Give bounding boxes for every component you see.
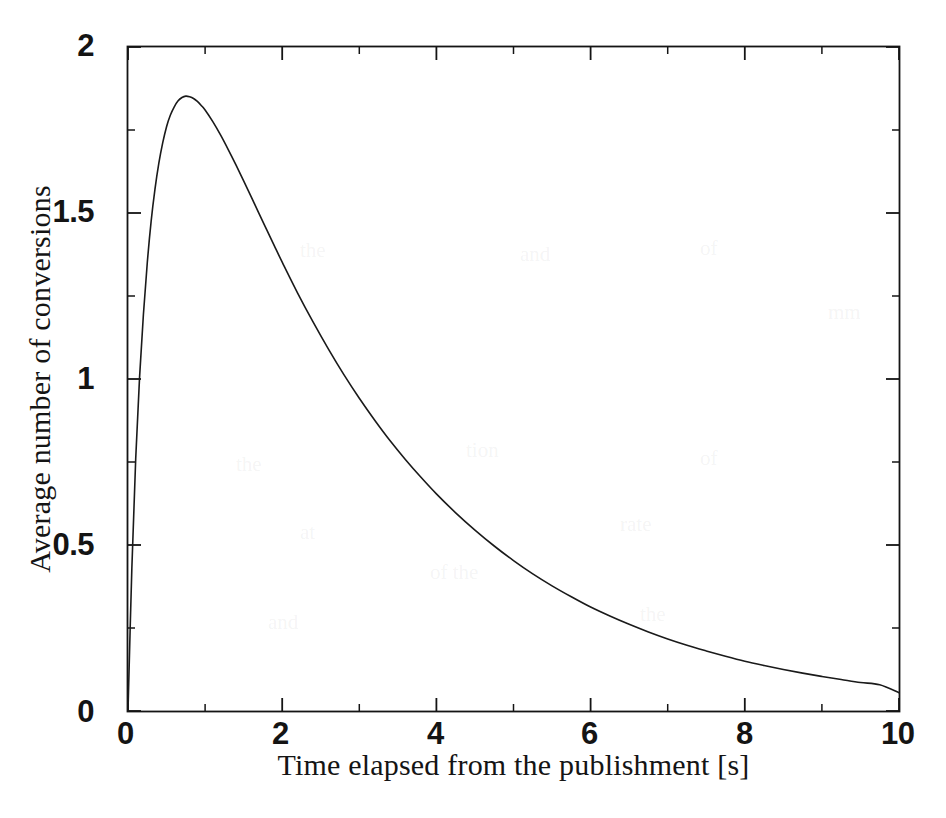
y-tick-label-2: 2 bbox=[77, 28, 94, 64]
y-tick-label-1: 1 bbox=[77, 361, 94, 397]
x-tick-label-4: 4 bbox=[427, 716, 444, 752]
x-tick-label-10: 10 bbox=[881, 716, 914, 752]
x-axis-title-container: Time elapsed from the publishment [s] bbox=[127, 748, 900, 782]
y-axis-title: Average number of conversions bbox=[23, 185, 57, 573]
x-tick-label-0: 0 bbox=[117, 716, 134, 752]
figure-container: theandofmmthetionofatrateof theandthe 2 … bbox=[0, 0, 946, 818]
figure-background bbox=[0, 0, 946, 818]
y-axis-title-container: Average number of conversions bbox=[18, 46, 62, 712]
y-tick-label-0: 0 bbox=[77, 694, 94, 730]
x-tick-label-2: 2 bbox=[272, 716, 289, 752]
plot-svg bbox=[0, 0, 946, 818]
x-tick-label-8: 8 bbox=[736, 716, 753, 752]
x-axis-title: Time elapsed from the publishment [s] bbox=[277, 748, 749, 781]
x-tick-label-6: 6 bbox=[581, 716, 598, 752]
